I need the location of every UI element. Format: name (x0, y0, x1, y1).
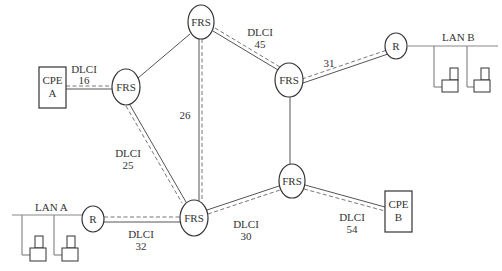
lan-a-label: LAN A (35, 201, 68, 213)
dlci-label-26: 26 (180, 109, 192, 121)
svg-text:16: 16 (79, 74, 91, 86)
link-frs-top-frs-bottom (199, 39, 202, 201)
dlci-label-25: DLCI 25 (115, 147, 141, 171)
svg-text:FRS: FRS (184, 212, 204, 224)
frs-node-lower-right: FRS (279, 164, 305, 198)
dlci-label-54: DLCI 54 (339, 211, 365, 235)
lan-b: LAN B (408, 31, 498, 92)
svg-text:FRS: FRS (116, 81, 136, 93)
svg-text:A: A (49, 87, 57, 99)
svg-text:32: 32 (136, 240, 147, 252)
svg-text:B: B (395, 211, 402, 223)
link-frs-lower-right-cpe-b (304, 185, 385, 211)
workstation-icon (62, 236, 78, 261)
frs-node-mid-right: FRS (275, 63, 303, 97)
svg-text:FRS: FRS (191, 16, 211, 28)
link-frs-bottom-frs-lower-right (207, 186, 280, 214)
router-node-b: R (385, 33, 407, 59)
dlci-label-16: DLCI 16 (71, 63, 97, 86)
svg-text:DLCI: DLCI (339, 211, 365, 223)
frs-node-top: FRS (188, 5, 214, 39)
dlci-label-31: 31 (324, 57, 335, 69)
svg-text:CPE: CPE (42, 74, 62, 86)
svg-text:DLCI: DLCI (247, 26, 273, 38)
cpe-b-box: CPE B (385, 191, 412, 232)
svg-text:45: 45 (255, 38, 267, 50)
dlci-label-30: DLCI 30 (233, 218, 259, 242)
frame-relay-diagram: LAN B LAN A FRS FRS FRS FRS FRS (0, 0, 502, 271)
svg-text:31: 31 (324, 57, 335, 69)
svg-text:DLCI: DLCI (233, 218, 259, 230)
dlci-label-32: DLCI 32 (128, 228, 154, 252)
svg-text:R: R (89, 213, 97, 225)
svg-text:DLCI: DLCI (128, 228, 154, 240)
svg-text:FRS: FRS (279, 74, 299, 86)
lan-a: LAN A (12, 201, 82, 261)
svg-text:CPE: CPE (388, 198, 408, 210)
frs-node-bottom: FRS (180, 200, 208, 236)
workstation-icon (442, 68, 458, 92)
workstation-icon (30, 236, 46, 261)
link-frs-mid-right-router-b (302, 50, 388, 83)
dlci-label-45: DLCI 45 (247, 26, 273, 50)
svg-text:26: 26 (180, 109, 192, 121)
frs-node-left: FRS (112, 69, 140, 105)
router-node-a: R (82, 206, 104, 232)
svg-text:R: R (392, 40, 400, 52)
svg-text:30: 30 (241, 230, 253, 242)
lan-b-label: LAN B (442, 31, 475, 43)
link-frs-left-frs-top (138, 34, 190, 78)
svg-text:DLCI: DLCI (115, 147, 141, 159)
workstation-icon (474, 68, 490, 92)
link-cpe-a-frs-left (66, 86, 112, 89)
cpe-a-box: CPE A (39, 67, 66, 108)
link-router-a-frs-bottom (104, 217, 180, 222)
svg-text:25: 25 (123, 159, 135, 171)
svg-text:FRS: FRS (282, 175, 302, 187)
svg-text:54: 54 (347, 223, 359, 235)
